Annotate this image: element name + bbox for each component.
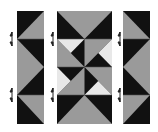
press-arrow-icon — [118, 88, 120, 102]
right-strip — [123, 11, 150, 124]
left-strip — [17, 11, 44, 124]
press-arrow-icon — [118, 32, 120, 46]
quilt-diagram — [0, 0, 158, 132]
press-arrow-icon — [10, 32, 12, 46]
press-arrow-icon — [51, 88, 53, 102]
press-arrow-icon — [10, 88, 12, 102]
press-arrow-icon — [51, 32, 53, 46]
